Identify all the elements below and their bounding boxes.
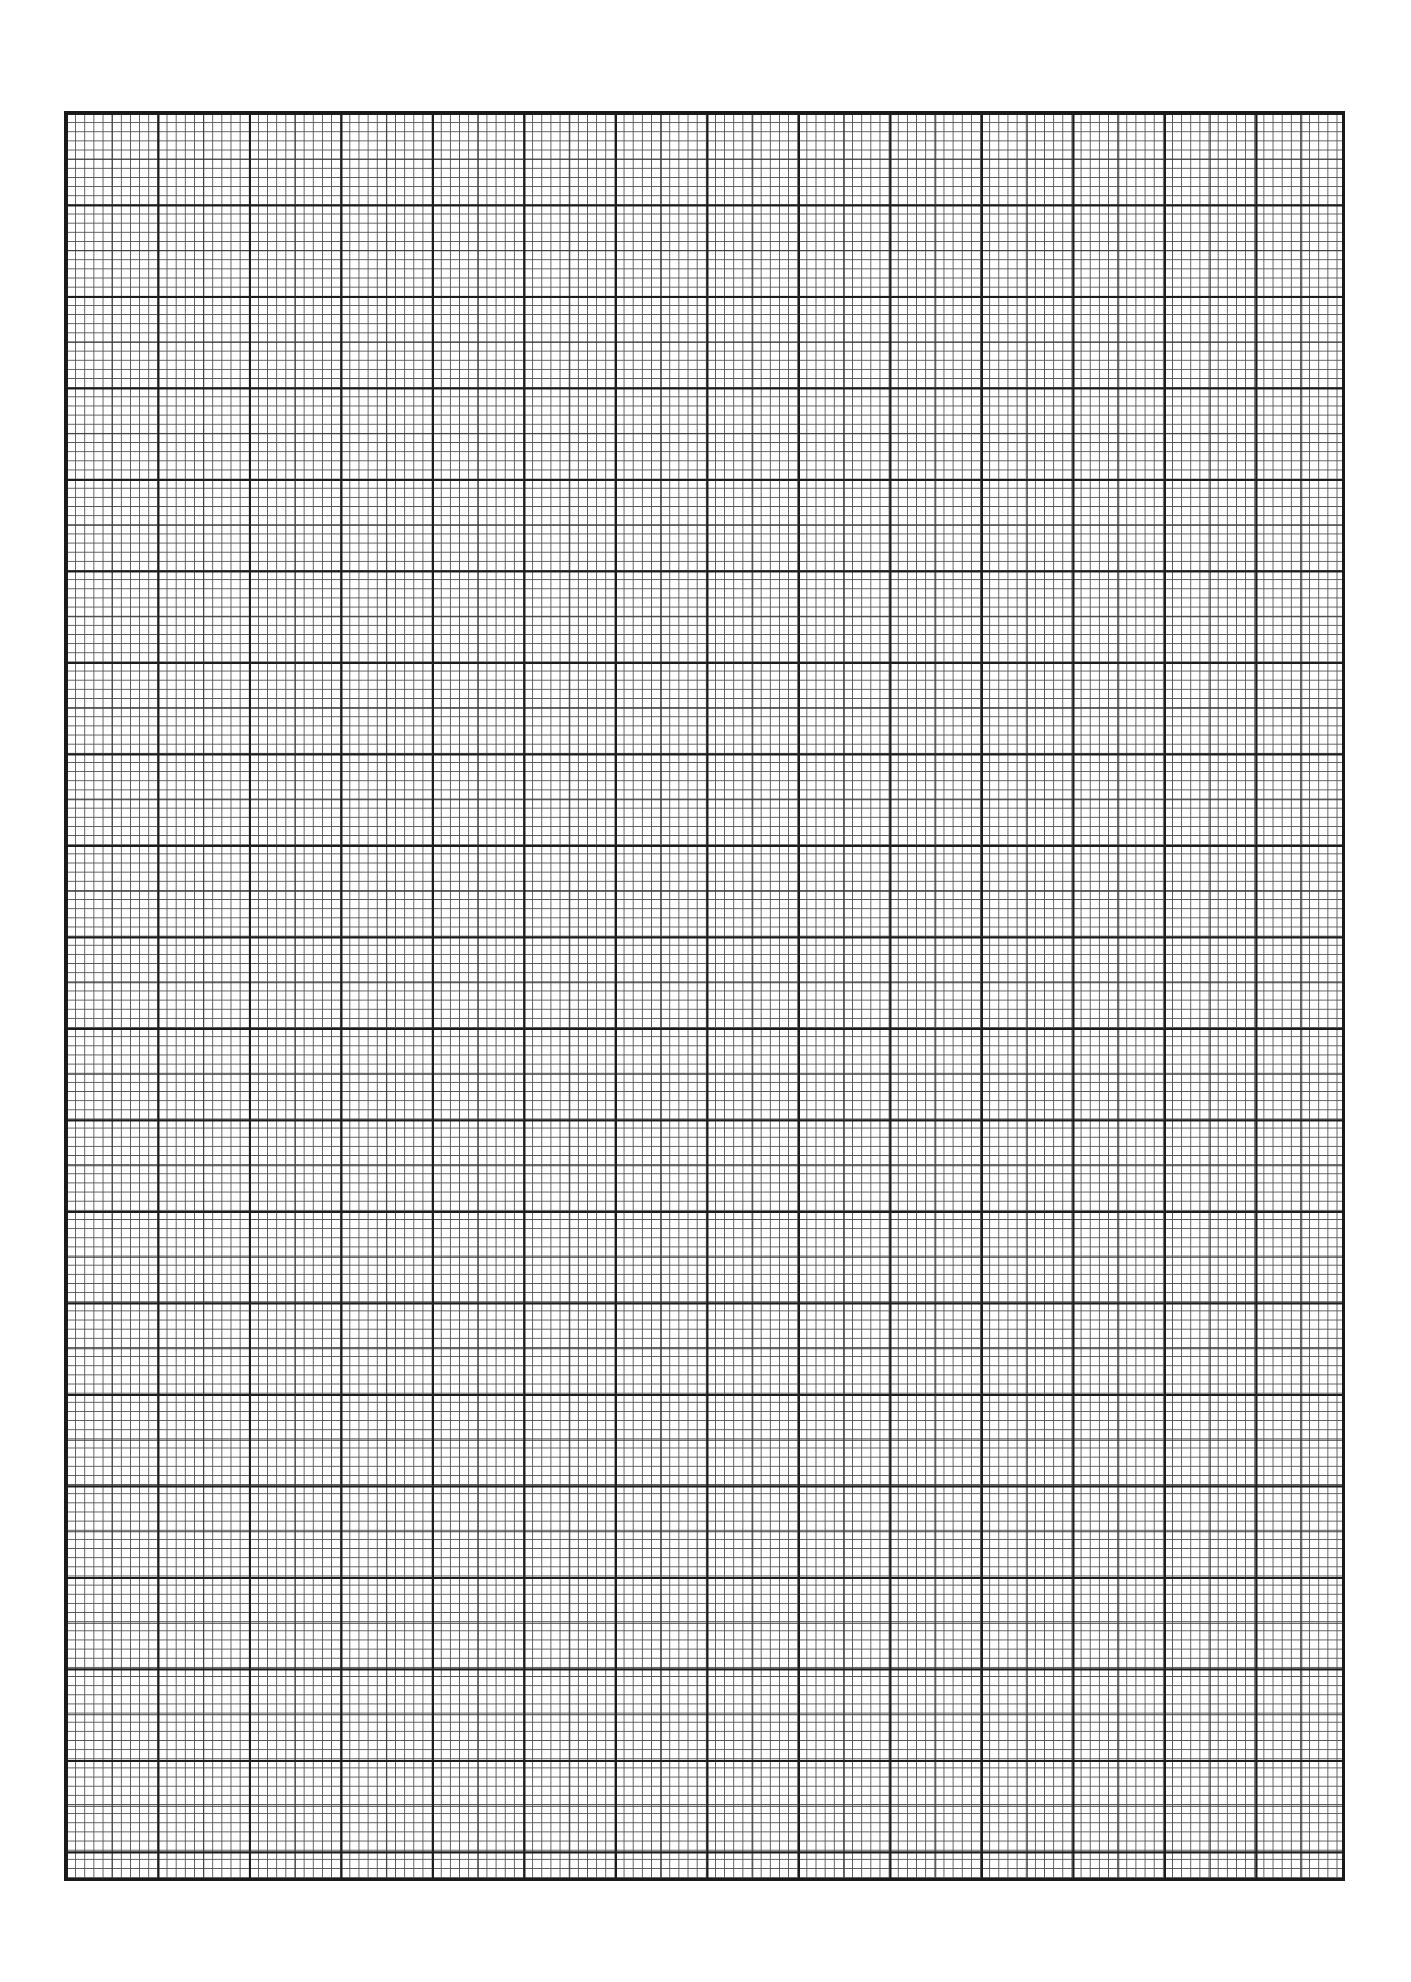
graph-paper-grid bbox=[64, 111, 1345, 1881]
